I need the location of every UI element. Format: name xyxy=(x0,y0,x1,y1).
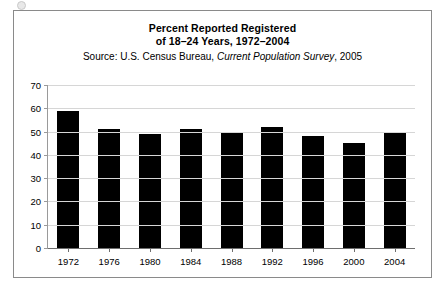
y-axis-label: 50 xyxy=(30,126,41,137)
bar[interactable] xyxy=(384,132,406,248)
chart-frame: Percent Reported Registered of 18–24 Yea… xyxy=(13,10,432,278)
bar[interactable] xyxy=(302,136,324,248)
x-axis-label: 1972 xyxy=(58,256,79,267)
scan-artifact xyxy=(17,1,26,10)
y-axis-tick xyxy=(44,108,48,109)
x-axis-tick xyxy=(313,248,314,252)
x-axis-label: 2004 xyxy=(384,256,405,267)
bar-slot: 1996 xyxy=(293,85,334,248)
y-axis-tick xyxy=(44,248,48,249)
x-axis-tick xyxy=(191,248,192,252)
bar-slot: 2000 xyxy=(333,85,374,248)
bar[interactable] xyxy=(221,132,243,248)
x-axis-label: 1992 xyxy=(262,256,283,267)
x-axis-label: 1988 xyxy=(221,256,242,267)
y-axis-tick xyxy=(44,155,48,156)
x-axis-tick xyxy=(68,248,69,252)
x-axis-label: 1976 xyxy=(99,256,120,267)
bar[interactable] xyxy=(180,129,202,248)
bar-slot: 2004 xyxy=(374,85,415,248)
plot-area-wrapper: 197219761980198419881992199620002004 010… xyxy=(14,11,433,279)
gridline xyxy=(48,85,415,86)
y-axis-tick xyxy=(44,178,48,179)
gridline xyxy=(48,201,415,202)
gridline xyxy=(48,132,415,133)
x-axis-tick xyxy=(150,248,151,252)
x-axis-label: 1984 xyxy=(180,256,201,267)
bar-slot: 1988 xyxy=(211,85,252,248)
gridline xyxy=(48,108,415,109)
bar-slot: 1976 xyxy=(89,85,130,248)
x-axis-label: 2000 xyxy=(343,256,364,267)
y-axis-tick xyxy=(44,132,48,133)
y-axis-label: 40 xyxy=(30,149,41,160)
y-axis-label: 10 xyxy=(30,219,41,230)
x-axis-tick xyxy=(395,248,396,252)
x-axis-tick xyxy=(354,248,355,252)
gridline xyxy=(48,225,415,226)
y-axis-label: 30 xyxy=(30,173,41,184)
bar[interactable] xyxy=(98,129,120,248)
y-axis-label: 20 xyxy=(30,196,41,207)
y-axis-tick xyxy=(44,85,48,86)
x-axis-tick xyxy=(272,248,273,252)
bar-slot: 1972 xyxy=(48,85,89,248)
x-axis-tick xyxy=(109,248,110,252)
bar-slot: 1984 xyxy=(170,85,211,248)
x-axis-tick xyxy=(232,248,233,252)
y-axis-tick xyxy=(44,201,48,202)
bar[interactable] xyxy=(261,127,283,248)
bar-slot: 1992 xyxy=(252,85,293,248)
gridline xyxy=(48,178,415,179)
y-axis-label: 0 xyxy=(36,243,41,254)
y-axis-label: 60 xyxy=(30,103,41,114)
bar[interactable] xyxy=(139,134,161,248)
bar-series: 197219761980198419881992199620002004 xyxy=(48,85,415,248)
plot-area: 197219761980198419881992199620002004 010… xyxy=(47,85,415,249)
gridline xyxy=(48,155,415,156)
x-axis-label: 1996 xyxy=(303,256,324,267)
y-axis-tick xyxy=(44,225,48,226)
x-axis-label: 1980 xyxy=(139,256,160,267)
bar-slot: 1980 xyxy=(130,85,171,248)
bar[interactable] xyxy=(343,143,365,248)
y-axis-label: 70 xyxy=(30,80,41,91)
